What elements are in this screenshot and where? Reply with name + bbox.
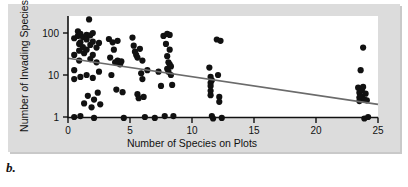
data-point bbox=[167, 47, 173, 53]
data-point bbox=[139, 76, 145, 82]
data-point bbox=[360, 84, 366, 90]
data-point bbox=[90, 75, 96, 81]
data-point bbox=[163, 41, 169, 47]
x-tick-label: 15 bbox=[248, 125, 260, 136]
data-point bbox=[96, 40, 102, 46]
x-tick-label: 20 bbox=[310, 125, 322, 136]
data-point bbox=[91, 96, 97, 102]
data-point bbox=[84, 72, 90, 78]
data-point bbox=[90, 52, 96, 58]
data-point bbox=[210, 115, 216, 121]
data-point bbox=[363, 91, 369, 97]
data-point bbox=[86, 16, 92, 22]
data-point bbox=[119, 89, 125, 95]
figure-panel-b: 110100 0510152025 Number of Species on P… bbox=[0, 0, 408, 187]
data-point bbox=[107, 54, 113, 60]
data-point bbox=[71, 67, 77, 73]
data-point bbox=[169, 82, 175, 88]
data-point bbox=[71, 52, 77, 58]
data-point bbox=[90, 39, 96, 45]
data-point bbox=[90, 30, 96, 36]
data-point bbox=[167, 32, 173, 38]
y-tick-label: 10 bbox=[48, 70, 60, 81]
data-point bbox=[85, 93, 91, 99]
scatter-plot: 110100 0510152025 Number of Species on P… bbox=[0, 0, 408, 187]
data-point bbox=[95, 90, 101, 96]
data-point bbox=[141, 94, 147, 100]
data-point bbox=[137, 46, 143, 52]
data-point bbox=[360, 44, 366, 50]
x-tick-label: 5 bbox=[127, 125, 133, 136]
data-point bbox=[216, 99, 222, 105]
data-point bbox=[164, 53, 170, 59]
data-point bbox=[131, 43, 137, 49]
data-point bbox=[139, 58, 145, 64]
data-point bbox=[81, 100, 87, 106]
x-axis-ticks: 0510152025 bbox=[65, 118, 384, 137]
data-point bbox=[358, 67, 364, 73]
y-axis-ticks: 110100 bbox=[42, 28, 68, 123]
plot-area-background bbox=[68, 16, 378, 117]
data-point bbox=[208, 92, 214, 98]
x-axis-title: Number of Species on Plots bbox=[127, 137, 257, 149]
x-tick-label: 0 bbox=[65, 125, 71, 136]
data-point bbox=[71, 76, 77, 82]
data-point bbox=[88, 104, 94, 110]
data-point bbox=[217, 38, 223, 44]
data-point bbox=[111, 47, 117, 53]
data-point bbox=[129, 34, 135, 40]
figure-caption: b. bbox=[6, 160, 16, 176]
y-axis-title: Number of Invading Species bbox=[18, 0, 30, 132]
y-tick-label: 1 bbox=[53, 112, 59, 123]
x-tick-label: 10 bbox=[186, 125, 198, 136]
data-point bbox=[158, 83, 164, 89]
data-point bbox=[96, 69, 102, 75]
data-point bbox=[115, 38, 121, 44]
data-point bbox=[206, 65, 212, 71]
y-tick-label: 100 bbox=[42, 28, 59, 39]
data-point bbox=[168, 63, 174, 69]
data-point bbox=[138, 70, 144, 76]
data-point bbox=[118, 58, 124, 64]
data-point bbox=[113, 86, 119, 92]
data-point bbox=[97, 101, 103, 107]
data-point bbox=[108, 72, 114, 78]
data-point bbox=[77, 74, 83, 80]
x-tick-label: 25 bbox=[372, 125, 384, 136]
data-point bbox=[215, 72, 221, 78]
